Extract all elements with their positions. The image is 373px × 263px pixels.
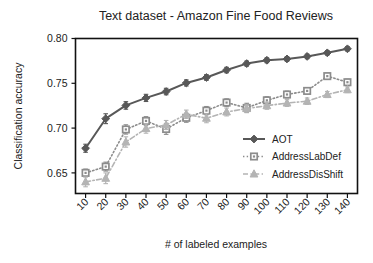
y-tick-label: 0.75 xyxy=(47,77,68,89)
legend-label: AddressDisShift xyxy=(272,169,343,180)
y-tick-label: 0.65 xyxy=(47,167,68,179)
legend-label: AOT xyxy=(272,134,293,145)
legend-label: AddressLabDef xyxy=(272,151,341,162)
y-tick-label: 0.70 xyxy=(47,122,68,134)
chart-figure: Text dataset - Amazon Fine Food Reviews … xyxy=(0,0,373,263)
chart-title: Text dataset - Amazon Fine Food Reviews xyxy=(99,9,333,23)
x-axis-label: # of labeled examples xyxy=(165,238,267,250)
y-tick-label: 0.80 xyxy=(47,32,68,44)
y-axis-label: Classification accuracy xyxy=(12,62,24,170)
